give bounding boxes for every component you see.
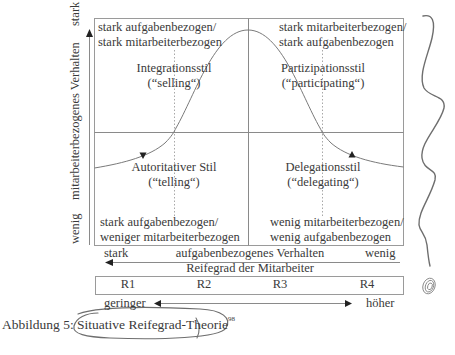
y-axis-high-label: stark (68, 2, 83, 26)
maturity-arrow-left-head (154, 300, 161, 307)
spiral-doodle (421, 276, 438, 295)
maturity-level-r3: R3 (260, 277, 300, 292)
x-axis-left-label: stark (104, 246, 128, 261)
selling-label: (“selling“) (124, 76, 224, 91)
pen-squiggle-annotation (419, 16, 444, 266)
y-axis-label: mitarbeiterbezogenes Verhalten (68, 42, 83, 200)
bottom-right-line2: wenig aufgabenbezogen (270, 230, 404, 245)
top-right-description: stark mitarbeiterbezogen/ stark aufgaben… (279, 20, 406, 50)
bottom-left-line2: weniger mitarbeiterbezogen (100, 230, 240, 245)
authoritative-style-label: Autoritativer Stil (124, 160, 224, 175)
figure-caption: Abbildung 5: Situative Reifegrad-Theorie… (2, 317, 235, 333)
y-axis-low-label: wenig (68, 213, 83, 244)
bottom-left-description: stark aufgabenbezogen/ weniger mitarbeit… (100, 215, 240, 245)
bottom-right-line1: wenig mitarbeiterbezogen/ (270, 215, 404, 230)
maturity-low-label: geringer (104, 296, 146, 311)
top-left-description: stark aufgabenbezogen/ stark mitarbeiter… (98, 20, 222, 50)
participation-style-label: Partizipationsstil (272, 61, 374, 76)
x-axis-label: aufgabenbezogenes Verhalten (160, 246, 340, 261)
bottom-right-style: Delegationsstil (“delegating“) (272, 160, 374, 190)
maturity-level-r1: R1 (108, 277, 148, 292)
maturity-level-r4: R4 (347, 277, 387, 292)
telling-label: (“telling“) (124, 175, 224, 190)
top-right-line1: stark mitarbeiterbezogen/ (279, 20, 406, 35)
y-axis-arrowhead (86, 29, 93, 37)
bottom-left-style: Autoritativer Stil (“telling“) (124, 160, 224, 190)
top-right-line2: stark aufgabenbezogen (279, 35, 406, 50)
top-right-style: Partizipationsstil (“participating“) (272, 61, 374, 91)
maturity-label: Reifegrad der Mitarbeiter (160, 261, 340, 276)
caption-title: Situative Reifegrad-Theorie (77, 317, 228, 332)
down-triangle-marker (140, 153, 147, 160)
maturity-high-label: höher (366, 296, 394, 311)
participating-label: (“participating“) (272, 76, 374, 91)
maturity-arrow-right-head (345, 300, 352, 307)
top-left-line2: stark mitarbeiterbezogen (98, 35, 222, 50)
top-left-style: Integrationsstil (“selling“) (124, 61, 224, 91)
caption-footnote: 98 (228, 315, 235, 323)
bottom-left-line1: stark aufgabenbezogen/ (100, 215, 240, 230)
delegation-style-label: Delegationsstil (272, 160, 374, 175)
x-axis-right-label: wenig (365, 246, 396, 261)
delegating-label: (“delegating“) (272, 175, 374, 190)
bottom-right-description: wenig mitarbeiterbezogen/ wenig aufgaben… (270, 215, 404, 245)
top-left-line1: stark aufgabenbezogen/ (98, 20, 222, 35)
maturity-level-r2: R2 (184, 277, 224, 292)
integration-style-label: Integrationsstil (124, 61, 224, 76)
caption-prefix: Abbildung 5: (2, 317, 77, 332)
